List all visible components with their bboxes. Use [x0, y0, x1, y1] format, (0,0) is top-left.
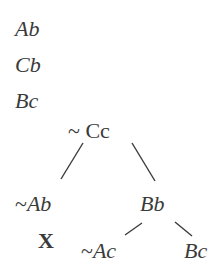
node-bb: Bb — [140, 193, 164, 215]
negation-tilde: ~ — [15, 191, 27, 216]
negation-tilde: ~ — [81, 238, 93, 263]
node-not-ab: ~Ab — [15, 193, 51, 215]
tree-branches — [0, 0, 221, 271]
node-term: Ab — [27, 191, 51, 216]
closed-branch-marker: X — [38, 230, 54, 252]
branch-right-left — [125, 223, 142, 235]
node-bc: Bc — [184, 240, 207, 262]
branch-right-right — [175, 222, 192, 236]
node-term: Ac — [93, 238, 116, 263]
node-not-ac: ~Ac — [81, 240, 116, 262]
branch-right — [132, 143, 155, 181]
branch-left — [61, 143, 83, 179]
